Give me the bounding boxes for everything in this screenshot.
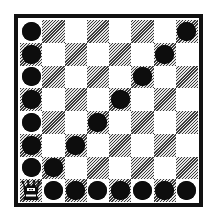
board-square-r5-c2[interactable] — [65, 134, 87, 157]
board-square-r0-c1[interactable] — [42, 20, 64, 43]
board-square-r2-c4[interactable] — [109, 66, 131, 89]
black-piece-icon[interactable] — [22, 158, 41, 177]
black-piece-icon[interactable] — [66, 181, 85, 200]
black-piece-icon[interactable] — [88, 181, 107, 200]
board-square-r7-c4[interactable] — [109, 179, 131, 202]
board-square-r3-c7[interactable] — [176, 88, 198, 111]
board-grid — [20, 20, 198, 202]
black-piece-icon[interactable] — [177, 22, 196, 41]
black-piece-icon[interactable] — [66, 136, 85, 155]
board-square-r3-c1[interactable] — [42, 88, 64, 111]
board-square-r7-c7[interactable] — [176, 179, 198, 202]
board-square-r1-c6[interactable] — [154, 43, 176, 66]
board-square-r2-c3[interactable] — [87, 66, 109, 89]
board-square-r7-c2[interactable] — [65, 179, 87, 202]
board-square-r5-c0[interactable] — [20, 134, 42, 157]
black-piece-icon[interactable] — [155, 45, 174, 64]
black-piece-icon[interactable] — [22, 22, 41, 41]
board-square-r7-c0[interactable] — [20, 179, 42, 202]
board-square-r6-c4[interactable] — [109, 157, 131, 180]
board-square-r2-c6[interactable] — [154, 66, 176, 89]
black-piece-icon[interactable] — [22, 113, 41, 132]
board-square-r4-c7[interactable] — [176, 111, 198, 134]
board-square-r1-c0[interactable] — [20, 43, 42, 66]
board-square-r4-c1[interactable] — [42, 111, 64, 134]
board-square-r6-c7[interactable] — [176, 157, 198, 180]
board-square-r5-c5[interactable] — [131, 134, 153, 157]
board-square-r1-c2[interactable] — [65, 43, 87, 66]
black-piece-icon[interactable] — [111, 181, 130, 200]
board-square-r1-c1[interactable] — [42, 43, 64, 66]
board-square-r0-c0[interactable] — [20, 20, 42, 43]
black-piece-icon[interactable] — [44, 181, 63, 200]
board-square-r5-c3[interactable] — [87, 134, 109, 157]
board-square-r6-c1[interactable] — [42, 157, 64, 180]
board-square-r4-c0[interactable] — [20, 111, 42, 134]
black-piece-icon[interactable] — [22, 136, 41, 155]
black-piece-icon[interactable] — [22, 67, 41, 86]
board-square-r6-c0[interactable] — [20, 157, 42, 180]
checkers-board — [14, 14, 203, 207]
black-piece-icon[interactable] — [155, 181, 174, 200]
board-square-r4-c5[interactable] — [131, 111, 153, 134]
black-piece-icon[interactable] — [133, 67, 152, 86]
board-square-r1-c5[interactable] — [131, 43, 153, 66]
board-square-r4-c4[interactable] — [109, 111, 131, 134]
board-square-r4-c6[interactable] — [154, 111, 176, 134]
board-square-r5-c4[interactable] — [109, 134, 131, 157]
board-square-r6-c5[interactable] — [131, 157, 153, 180]
board-square-r5-c6[interactable] — [154, 134, 176, 157]
board-square-r0-c6[interactable] — [154, 20, 176, 43]
board-square-r4-c3[interactable] — [87, 111, 109, 134]
board-square-r0-c5[interactable] — [131, 20, 153, 43]
board-square-r1-c7[interactable] — [176, 43, 198, 66]
board-square-r3-c3[interactable] — [87, 88, 109, 111]
black-piece-icon[interactable] — [22, 45, 41, 64]
board-square-r2-c5[interactable] — [131, 66, 153, 89]
board-square-r3-c6[interactable] — [154, 88, 176, 111]
board-square-r4-c2[interactable] — [65, 111, 87, 134]
board-square-r6-c6[interactable] — [154, 157, 176, 180]
board-square-r1-c4[interactable] — [109, 43, 131, 66]
crown-king-icon[interactable] — [21, 180, 41, 201]
black-piece-icon[interactable] — [133, 181, 152, 200]
board-square-r0-c2[interactable] — [65, 20, 87, 43]
board-square-r0-c3[interactable] — [87, 20, 109, 43]
board-square-r0-c4[interactable] — [109, 20, 131, 43]
board-square-r7-c1[interactable] — [42, 179, 64, 202]
black-piece-icon[interactable] — [44, 158, 63, 177]
board-square-r7-c5[interactable] — [131, 179, 153, 202]
board-square-r7-c6[interactable] — [154, 179, 176, 202]
black-piece-icon[interactable] — [88, 113, 107, 132]
board-square-r2-c0[interactable] — [20, 66, 42, 89]
board-square-r2-c1[interactable] — [42, 66, 64, 89]
board-square-r2-c7[interactable] — [176, 66, 198, 89]
board-square-r3-c4[interactable] — [109, 88, 131, 111]
board-square-r6-c2[interactable] — [65, 157, 87, 180]
board-square-r7-c3[interactable] — [87, 179, 109, 202]
board-square-r1-c3[interactable] — [87, 43, 109, 66]
board-square-r2-c2[interactable] — [65, 66, 87, 89]
board-square-r5-c7[interactable] — [176, 134, 198, 157]
board-square-r3-c5[interactable] — [131, 88, 153, 111]
black-piece-icon[interactable] — [111, 90, 130, 109]
board-square-r3-c2[interactable] — [65, 88, 87, 111]
black-piece-icon[interactable] — [22, 90, 41, 109]
board-square-r5-c1[interactable] — [42, 134, 64, 157]
black-piece-icon[interactable] — [177, 181, 196, 200]
board-square-r3-c0[interactable] — [20, 88, 42, 111]
board-square-r0-c7[interactable] — [176, 20, 198, 43]
board-square-r6-c3[interactable] — [87, 157, 109, 180]
